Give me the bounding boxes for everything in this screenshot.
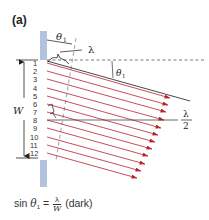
ray-number: 3	[33, 75, 37, 84]
ray-4	[47, 88, 164, 120]
formula-suffix: (dark)	[62, 197, 92, 209]
ray-number: 9	[33, 124, 37, 133]
lambda-top-label: λ	[88, 44, 95, 55]
lambda-leader-line	[60, 50, 82, 52]
half-lambda-den: 2	[183, 121, 189, 131]
ray-12	[47, 153, 137, 178]
width-label: W	[13, 105, 24, 116]
ray-5	[47, 96, 161, 128]
slit-barrier-top	[40, 31, 47, 60]
ray-3	[47, 79, 166, 112]
ray-number: 12	[30, 149, 38, 158]
slit-barrier-bottom	[40, 160, 47, 187]
ray-7	[47, 112, 155, 142]
ray-6	[47, 104, 158, 135]
theta-right-sub: 1	[122, 73, 126, 79]
ray-9	[47, 128, 148, 156]
ray-10	[47, 137, 145, 164]
single-slit-diagram: 1 2 3 4 5 6 7 8 9 10 11 12 θ 1 λ θ 1 W λ…	[0, 0, 209, 220]
theta-top-sub: 1	[63, 36, 67, 43]
formula-fraction: λW	[53, 196, 61, 213]
ray-group	[47, 61, 190, 178]
ray-8	[47, 120, 152, 149]
ray-number-labels: 1 2 3 4 5 6 7 8 9 10 11 12	[30, 59, 38, 158]
ray-2	[47, 71, 168, 105]
dark-fringe-formula: sin θ1 = λW (dark)	[14, 196, 93, 213]
formula-prefix: sin	[14, 197, 30, 209]
theta-right-tick	[112, 61, 113, 78]
ray-1-dark	[47, 61, 190, 101]
theta-top-label: θ	[56, 31, 62, 42]
half-lambda-num: λ	[183, 109, 189, 119]
formula-equals: =	[40, 197, 52, 209]
ray-11	[47, 145, 141, 171]
formula-denominator: W	[53, 205, 61, 213]
